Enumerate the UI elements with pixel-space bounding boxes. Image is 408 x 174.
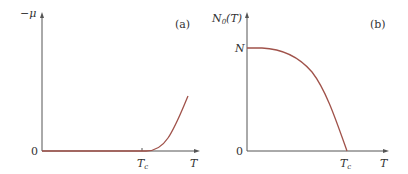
y-label-b: N0(T) [211, 12, 242, 26]
tc-label-b: Tc [340, 157, 351, 171]
x-label-b: T [380, 157, 389, 170]
y-arrow-icon [40, 12, 44, 18]
x-arrow-icon [194, 149, 200, 153]
mu-curve [42, 96, 188, 151]
origin-a: 0 [31, 145, 38, 158]
n0-curve [247, 48, 347, 151]
n-label: N [234, 42, 245, 55]
panel-tag-a: (a) [175, 18, 190, 31]
panel-a: −μ (a) 0 Tc T [20, 7, 200, 171]
x-arrow-icon [383, 149, 389, 153]
panel-tag-b: (b) [370, 18, 386, 31]
x-label-a: T [190, 157, 199, 170]
tc-label-a: Tc [137, 157, 148, 171]
origin-b: 0 [236, 145, 243, 158]
y-label-a: −μ [20, 7, 36, 20]
y-arrow-icon [245, 12, 249, 18]
panel-b: N0(T) (b) N 0 Tc T [211, 12, 389, 171]
figure: −μ (a) 0 Tc T N0(T) (b) N 0 Tc T [0, 0, 408, 174]
